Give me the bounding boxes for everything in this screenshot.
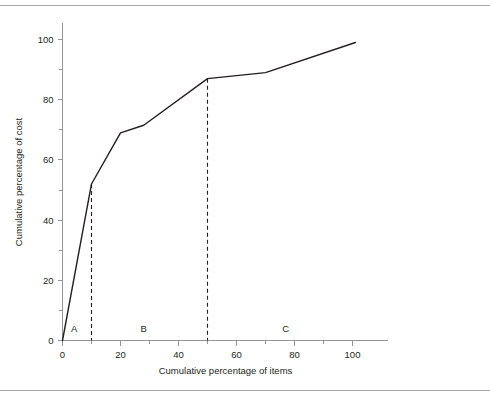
y-tick-label: 80: [43, 94, 54, 105]
abc-analysis-chart: 020406080100 020406080100 ABC Cumulative…: [0, 0, 490, 399]
y-tick-label: 100: [38, 34, 54, 45]
x-axis-tick-labels: 020406080100: [60, 349, 361, 360]
pareto-abc-figure: 020406080100 020406080100 ABC Cumulative…: [0, 0, 490, 399]
x-axis-title: Cumulative percentage of items: [159, 365, 293, 376]
zone-label-b: B: [141, 323, 147, 334]
x-tick-label: 20: [115, 349, 126, 360]
x-tick-label: 60: [231, 349, 242, 360]
x-tick-label: 40: [173, 349, 184, 360]
y-axis-tick-labels: 020406080100: [38, 34, 54, 346]
x-axis-minor-ticks: [92, 341, 324, 345]
y-tick-label: 0: [48, 335, 53, 346]
y-tick-label: 60: [43, 154, 54, 165]
top-rule: [0, 5, 490, 6]
x-tick-label: 80: [289, 349, 300, 360]
x-tick-label: 100: [345, 349, 361, 360]
x-tick-label: 0: [60, 349, 65, 360]
cumulative-cost-curve: [63, 43, 356, 341]
y-axis-title: Cumulative percentage of cost: [13, 117, 24, 246]
y-tick-label: 40: [43, 215, 54, 226]
y-axis-minor-ticks: [59, 70, 63, 311]
bottom-rule: [0, 390, 490, 391]
zone-divider-lines: [92, 79, 208, 341]
y-tick-label: 20: [43, 275, 54, 286]
zone-label-c: C: [282, 323, 289, 334]
zone-labels: ABC: [71, 323, 289, 334]
zone-label-a: A: [71, 323, 78, 334]
